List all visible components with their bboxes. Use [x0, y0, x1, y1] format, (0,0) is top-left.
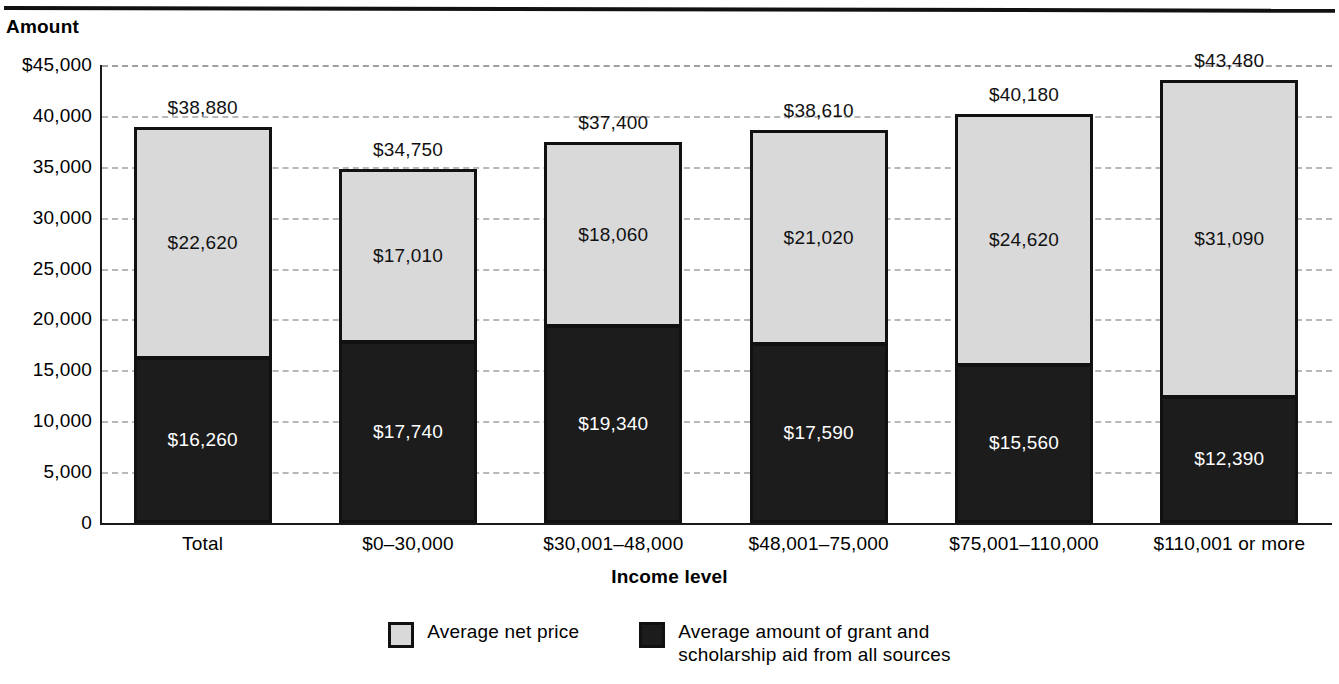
bar-segment-value-label: $21,020 — [784, 227, 854, 249]
legend-item[interactable]: Average net price — [388, 620, 579, 648]
gridline — [102, 472, 1332, 474]
legend-swatch-net-price-icon — [388, 622, 414, 648]
y-axis-title: Amount — [6, 16, 79, 38]
chart-legend: Average net priceAverage amount of grant… — [0, 620, 1339, 666]
y-axis-tick-label: 5,000 — [0, 461, 92, 483]
bar-segment-net-price[interactable]: $31,090 — [1160, 80, 1298, 396]
bar-stack[interactable]: $31,090$12,390$43,480 — [1160, 80, 1298, 523]
bar-total-label: $34,750 — [373, 139, 443, 161]
bar-segment-value-label: $19,340 — [578, 413, 648, 435]
bar-segment-net-price[interactable]: $24,620 — [955, 114, 1093, 365]
y-axis-tick-label: 20,000 — [0, 308, 92, 330]
bar-stack[interactable]: $22,620$16,260$38,880 — [134, 127, 272, 523]
bar-segment-grant-aid[interactable]: $19,340 — [544, 326, 682, 523]
y-axis-tick-label: $45,000 — [0, 54, 92, 76]
x-axis-tick-label: $110,001 or more — [1153, 533, 1305, 555]
y-axis-tick-label: 25,000 — [0, 258, 92, 280]
bar-segment-value-label: $24,620 — [989, 229, 1059, 251]
y-axis-tick-label: 40,000 — [0, 105, 92, 127]
bar-segment-value-label: $17,740 — [373, 421, 443, 443]
gridline — [102, 65, 1332, 67]
x-axis-tick-label: Total — [182, 533, 223, 555]
bar-segment-grant-aid[interactable]: $17,590 — [750, 344, 888, 523]
legend-item[interactable]: Average amount of grant and scholarship … — [639, 620, 951, 666]
bar-segment-value-label: $22,620 — [168, 232, 238, 254]
legend-label: Average amount of grant and scholarship … — [678, 620, 951, 666]
x-axis-tick-label: $30,001–48,000 — [543, 533, 683, 555]
bar-stack[interactable]: $24,620$15,560$40,180 — [955, 114, 1093, 523]
bar-total-label: $37,400 — [578, 112, 648, 134]
bar-total-label: $38,610 — [784, 100, 854, 122]
y-axis-tick-label: 30,000 — [0, 207, 92, 229]
header-rule — [4, 6, 1335, 13]
bar-segment-value-label: $15,560 — [989, 432, 1059, 454]
gridline — [102, 269, 1332, 271]
bar-stack[interactable]: $21,020$17,590$38,610 — [750, 130, 888, 523]
x-axis-title: Income level — [0, 566, 1339, 588]
gridline — [102, 319, 1332, 321]
bar-segment-grant-aid[interactable]: $17,740 — [339, 342, 477, 523]
y-axis-line — [100, 65, 102, 523]
bar-segment-grant-aid[interactable]: $12,390 — [1160, 397, 1298, 523]
bar-segment-net-price[interactable]: $18,060 — [544, 142, 682, 326]
bar-segment-net-price[interactable]: $21,020 — [750, 130, 888, 344]
bar-stack[interactable]: $18,060$19,340$37,400 — [544, 142, 682, 523]
gridline — [102, 167, 1332, 169]
gridline — [102, 370, 1332, 372]
gridline — [102, 218, 1332, 220]
bar-segment-net-price[interactable]: $17,010 — [339, 169, 477, 342]
bar-segment-grant-aid[interactable]: $15,560 — [955, 365, 1093, 523]
bar-segment-value-label: $12,390 — [1194, 448, 1264, 470]
legend-label: Average net price — [427, 620, 579, 643]
bar-stack[interactable]: $17,010$17,740$34,750 — [339, 169, 477, 523]
gridline — [102, 116, 1332, 118]
y-axis-tick-label: 0 — [0, 512, 92, 534]
bar-segment-value-label: $31,090 — [1194, 228, 1264, 250]
x-axis-tick-label: $48,001–75,000 — [749, 533, 889, 555]
bar-total-label: $40,180 — [989, 84, 1059, 106]
legend-swatch-grant-aid-icon — [639, 622, 665, 648]
x-axis-line — [100, 523, 1332, 525]
y-axis-tick-label: 15,000 — [0, 359, 92, 381]
bar-segment-value-label: $17,590 — [784, 422, 854, 444]
bar-segment-value-label: $17,010 — [373, 245, 443, 267]
bar-total-label: $38,880 — [168, 97, 238, 119]
plot-area: $22,620$16,260$38,880$17,010$17,740$34,7… — [100, 65, 1332, 523]
bar-segment-grant-aid[interactable]: $16,260 — [134, 358, 272, 523]
bar-segment-value-label: $16,260 — [168, 429, 238, 451]
bar-segment-value-label: $18,060 — [578, 224, 648, 246]
bar-total-label: $43,480 — [1194, 50, 1264, 72]
x-axis-tick-label: $0–30,000 — [362, 533, 454, 555]
x-axis-tick-label: $75,001–110,000 — [949, 533, 1099, 555]
gridline — [102, 421, 1332, 423]
y-axis-tick-label: 35,000 — [0, 156, 92, 178]
y-axis-tick-label: 10,000 — [0, 410, 92, 432]
y-axis-tick-labels: 05,00010,00015,00020,00025,00030,00035,0… — [0, 65, 92, 523]
bar-segment-net-price[interactable]: $22,620 — [134, 127, 272, 357]
